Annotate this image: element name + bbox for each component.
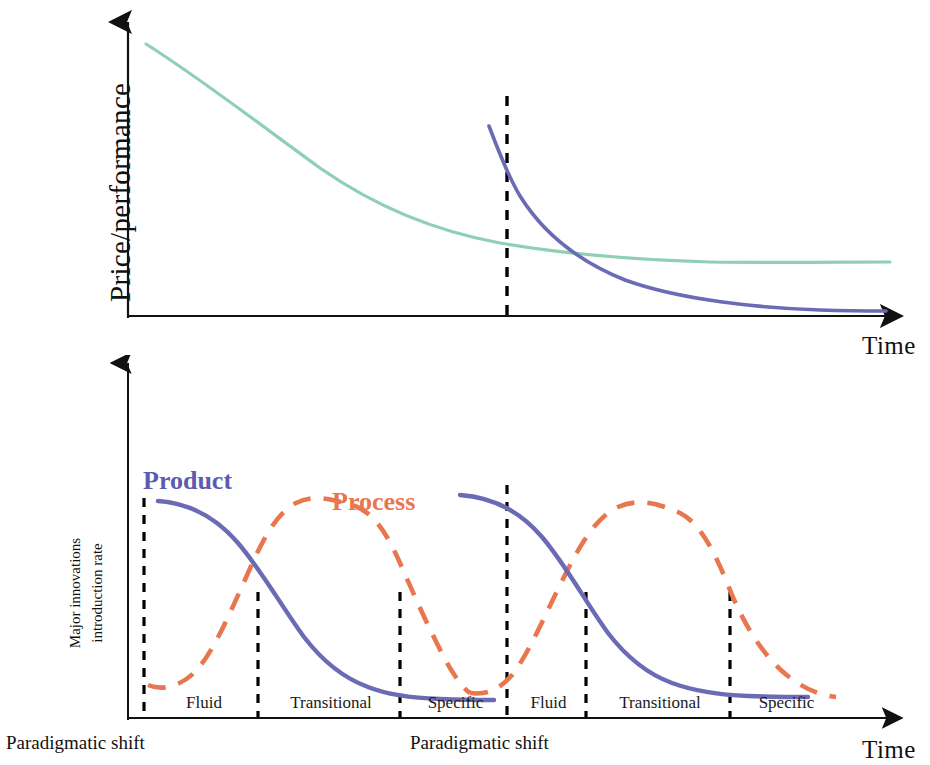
product-curve-cycle-2 — [460, 495, 808, 697]
paradigmatic-shift-caption-2: Paradigmatic shift — [410, 732, 549, 754]
phase-label-specific-1: Specific — [404, 693, 507, 713]
phase-label-transitional-1: Transitional — [262, 693, 400, 713]
series-label-product: Product — [143, 466, 232, 496]
top-y-axis-label: Price/performance — [104, 83, 137, 302]
phase-label-transitional-2: Transitional — [590, 693, 730, 713]
process-curve-cycle-2 — [470, 502, 836, 697]
bottom-y-axis-label-line1: Major innovations — [66, 508, 85, 678]
phase-label-fluid-2: Fluid — [511, 693, 586, 713]
bottom-x-axis-label: Time — [862, 736, 916, 764]
top-incumbent-curve — [146, 44, 890, 262]
phase-label-fluid-1: Fluid — [150, 693, 258, 713]
process-curve-cycle-1 — [148, 498, 470, 693]
phase-label-specific-2: Specific — [734, 693, 839, 713]
bottom-y-axis-label-line2: introduction rate — [88, 508, 107, 678]
series-label-process: Process — [332, 487, 415, 517]
paradigmatic-shift-caption-1: Paradigmatic shift — [6, 732, 145, 754]
top-new-technology-curve — [489, 126, 886, 311]
price-performance-panel — [0, 0, 930, 380]
product-curve-cycle-1 — [158, 501, 494, 700]
avanitti-abernathy-figure: Price/performance Time — [0, 0, 930, 765]
